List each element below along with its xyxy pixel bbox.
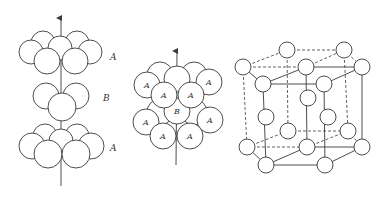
atom [336,42,352,58]
atom-label: A [186,132,193,141]
atom [280,123,296,139]
atom [255,76,271,92]
atom [354,59,370,75]
atom-label: A [205,78,212,87]
layer-a-top [19,31,102,74]
atom [279,42,295,58]
atom-label: A [159,132,166,141]
atom [354,139,370,155]
atom [258,109,274,125]
atom-label: A [206,116,213,125]
atom-label: A [142,118,149,127]
atom [316,76,332,92]
atom-label: A [187,91,194,100]
hcp-stacking-diagram: A B A B [0,0,386,198]
atom [317,157,333,173]
panel-exploded-stacking: A B A [19,18,117,186]
panel-compact-stacking: B A A A A A A A A [133,51,223,165]
layer-label: A [109,143,117,153]
atom [299,139,315,155]
layer-a-bottom [19,124,104,168]
atom-label: B [173,107,180,116]
atom [320,109,336,125]
panel-hcp-unit-cell [235,42,370,173]
atom [34,140,62,168]
atom [235,59,251,75]
atom [300,90,316,106]
atom [340,123,356,139]
atom-label: A [143,81,150,90]
atom [239,139,255,155]
atom [258,157,274,173]
layer-label: B [102,93,110,103]
layer-label: A [109,52,117,62]
atom [62,140,90,168]
atom [298,59,314,75]
atom-label: A [160,91,167,100]
atom [62,48,88,74]
atom [34,48,60,74]
atom [48,93,76,121]
